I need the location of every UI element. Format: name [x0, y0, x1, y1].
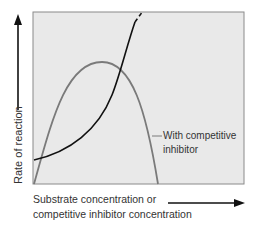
- y-axis-label: Rate of reaction: [12, 106, 24, 184]
- y-axis-arrowhead-icon: [14, 14, 22, 25]
- x-axis-arrowhead-icon: [234, 199, 245, 207]
- chart: With competitive inhibitor Rate of react…: [0, 0, 257, 228]
- x-axis-label: Substrate concentration or competitive i…: [33, 193, 192, 220]
